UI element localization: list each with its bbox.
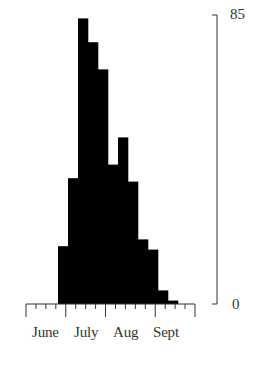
y-axis-min-label: 0 (232, 296, 240, 313)
histogram-bar (148, 250, 158, 304)
histogram-bar (68, 178, 78, 304)
histogram-bar (168, 301, 178, 304)
histogram-bars (58, 18, 178, 304)
histogram-bar (138, 239, 148, 304)
x-label-july: July (74, 324, 98, 341)
x-label-sept: Sept (153, 324, 179, 341)
y-axis (212, 15, 217, 304)
histogram-bar (88, 42, 98, 304)
histogram-bar (58, 246, 68, 304)
x-label-june: June (32, 324, 59, 341)
x-label-aug: Aug (113, 324, 138, 341)
histogram-bar (128, 182, 138, 304)
histogram-chart (0, 0, 266, 369)
histogram-bar (98, 69, 108, 304)
histogram-bar (78, 18, 88, 304)
y-axis-max-label: 85 (230, 6, 245, 23)
x-axis (26, 304, 195, 317)
histogram-bar (118, 137, 128, 304)
histogram-bar (158, 290, 168, 304)
histogram-bar (108, 165, 118, 304)
